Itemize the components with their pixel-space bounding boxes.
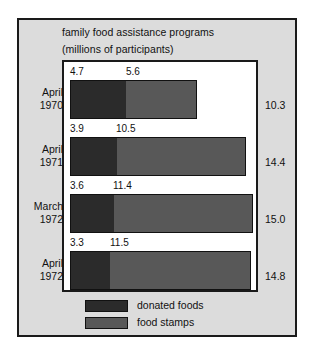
- category-label-line: April: [19, 143, 63, 156]
- legend-swatch-icon: [85, 300, 128, 312]
- donated-value-label: 3.9: [70, 123, 84, 134]
- bar-segment-donated-foods: [70, 194, 114, 233]
- category-label-line: April: [19, 86, 63, 99]
- bar-segment-food-stamps: [110, 251, 251, 290]
- chart-figure: family food assistance programs (million…: [17, 18, 297, 337]
- row-total: 10.3: [265, 99, 285, 111]
- stamps-value-label: 11.5: [110, 237, 129, 248]
- chart-subtitle: (millions of participants): [62, 43, 174, 55]
- stamps-value-label: 11.4: [113, 180, 132, 191]
- category-label-line: 1971: [19, 156, 63, 169]
- bar-segment-donated-foods: [70, 251, 110, 290]
- bar-segment-food-stamps: [126, 80, 197, 119]
- stamps-value-label: 5.6: [126, 66, 140, 77]
- legend-swatch-icon: [85, 317, 128, 329]
- donated-value-label: 3.6: [70, 180, 84, 191]
- category-label: April 1970: [19, 86, 63, 112]
- legend-label: donated foods: [137, 299, 204, 311]
- category-label-line: March: [15, 200, 63, 213]
- bar-segment-donated-foods: [70, 137, 117, 176]
- bar-row: 3.3 11.5: [64, 237, 256, 293]
- category-label: March 1972: [15, 200, 63, 226]
- bar-segment-donated-foods: [70, 80, 126, 119]
- bar-row: 3.6 11.4: [64, 180, 256, 236]
- donated-value-label: 4.7: [70, 66, 84, 77]
- row-total: 15.0: [265, 213, 285, 225]
- donated-value-label: 3.3: [70, 237, 84, 248]
- bar-segment-food-stamps: [114, 194, 253, 233]
- row-total: 14.4: [265, 156, 285, 168]
- legend-label: food stamps: [137, 316, 194, 328]
- category-label-line: 1972: [15, 213, 63, 226]
- category-label-line: April: [19, 257, 63, 270]
- stamps-value-label: 10.5: [116, 123, 135, 134]
- category-label-line: 1972: [19, 270, 63, 283]
- plot-area: 4.7 5.6 3.9 10.5 3.6 11.4 3.3 11.5: [62, 60, 258, 292]
- chart-title: family food assistance programs: [62, 26, 214, 38]
- category-label: April 1972: [19, 257, 63, 283]
- row-total: 14.8: [265, 270, 285, 282]
- category-label: April 1971: [19, 143, 63, 169]
- bar-row: 4.7 5.6: [64, 66, 256, 122]
- bar-segment-food-stamps: [117, 137, 246, 176]
- category-label-line: 1970: [19, 99, 63, 112]
- bar-row: 3.9 10.5: [64, 123, 256, 179]
